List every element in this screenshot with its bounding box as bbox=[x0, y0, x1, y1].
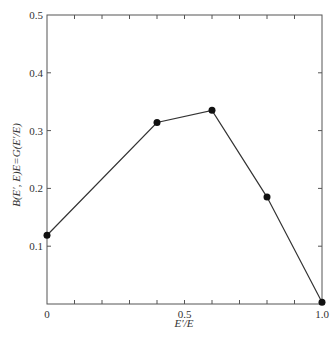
y-tick-label: 0.5 bbox=[29, 9, 43, 21]
data-point-marker bbox=[264, 194, 271, 201]
plot-border bbox=[47, 15, 322, 304]
y-tick-label: 0.3 bbox=[29, 125, 43, 137]
series-line bbox=[47, 110, 322, 302]
data-point-marker bbox=[154, 119, 161, 126]
y-tick-label: 0.4 bbox=[29, 67, 43, 79]
y-axis-ticks: 0.10.20.30.40.5 bbox=[29, 9, 322, 252]
data-point-marker bbox=[209, 107, 216, 114]
data-point-marker bbox=[319, 299, 326, 306]
line-chart: 00.51.0 0.10.20.30.40.5 E′/E B(E′, E)E=G… bbox=[0, 0, 333, 340]
plot-frame bbox=[47, 15, 322, 304]
data-point-marker bbox=[44, 232, 51, 239]
y-axis-title: B(E′, E)E=G(E′/E) bbox=[10, 123, 23, 207]
y-tick-label: 0.1 bbox=[29, 240, 43, 252]
x-tick-label: 0 bbox=[44, 308, 50, 320]
data-series bbox=[44, 107, 326, 306]
y-tick-label: 0.2 bbox=[29, 182, 43, 194]
x-tick-label: 1.0 bbox=[315, 308, 329, 320]
x-axis-ticks: 00.51.0 bbox=[44, 15, 329, 320]
x-axis-title: E′/E bbox=[174, 317, 194, 329]
